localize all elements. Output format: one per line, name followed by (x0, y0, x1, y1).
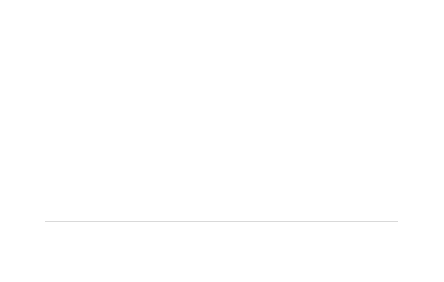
histogram-figure (0, 0, 444, 282)
x-axis-line (45, 221, 398, 222)
plot-panel (45, 40, 398, 221)
histogram-bars (45, 40, 398, 221)
y-axis-ticks (0, 0, 42, 282)
